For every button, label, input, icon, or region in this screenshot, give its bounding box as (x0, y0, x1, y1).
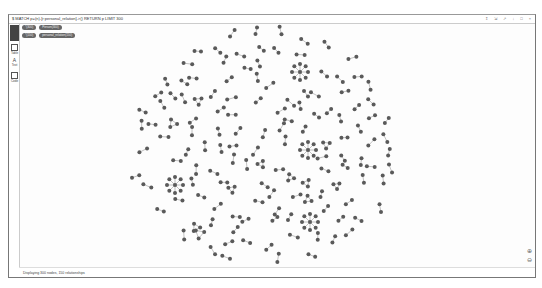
graph-node[interactable] (344, 202, 348, 206)
graph-node[interactable] (140, 127, 144, 131)
graph-node[interactable] (331, 182, 335, 186)
graph-node[interactable] (155, 207, 159, 211)
sidebar-item-text[interactable]: A Text (10, 58, 19, 70)
graph-node[interactable] (233, 185, 237, 189)
graph-node[interactable] (242, 66, 246, 70)
graph-node[interactable] (354, 55, 358, 59)
graph-node[interactable] (236, 225, 240, 229)
graph-node[interactable] (301, 130, 305, 134)
graph-node[interactable] (373, 113, 377, 117)
graph-node[interactable] (159, 90, 163, 94)
graph-node[interactable] (300, 154, 304, 158)
graph-node[interactable] (372, 103, 376, 107)
graph-node[interactable] (383, 121, 387, 125)
graph-node[interactable] (360, 74, 364, 78)
graph-node[interactable] (360, 156, 364, 160)
graph-node[interactable] (228, 35, 232, 39)
graph-node[interactable] (304, 76, 308, 80)
graph-node[interactable] (212, 207, 216, 211)
graph-node[interactable] (213, 89, 217, 93)
graph-node[interactable] (137, 108, 141, 112)
graph-node[interactable] (275, 260, 279, 264)
graph-node[interactable] (298, 62, 302, 66)
graph-node[interactable] (378, 202, 382, 206)
graph-node[interactable] (244, 158, 248, 162)
graph-node[interactable] (277, 206, 281, 210)
graph-node[interactable] (256, 145, 260, 149)
graph-node[interactable] (298, 70, 302, 74)
graph-node[interactable] (182, 237, 186, 241)
graph-node[interactable] (272, 46, 276, 50)
graph-node[interactable] (322, 209, 326, 213)
graph-node[interactable] (317, 95, 321, 99)
graph-node[interactable] (260, 200, 264, 204)
graph-node[interactable] (302, 214, 306, 218)
graph-node[interactable] (320, 189, 324, 193)
graph-node[interactable] (302, 89, 306, 93)
graph-node[interactable] (168, 91, 172, 95)
graph-node[interactable] (327, 45, 331, 49)
graph-node[interactable] (158, 135, 162, 139)
graph-node[interactable] (173, 197, 177, 201)
graph-canvas[interactable] (20, 24, 535, 267)
graph-node[interactable] (344, 233, 348, 237)
graph-node[interactable] (301, 181, 305, 185)
graph-node[interactable] (185, 82, 189, 86)
graph-node[interactable] (235, 52, 239, 56)
graph-node[interactable] (284, 134, 288, 138)
graph-node[interactable] (270, 243, 274, 247)
graph-node[interactable] (283, 117, 287, 121)
graph-node[interactable] (230, 191, 234, 195)
graph-node[interactable] (165, 183, 169, 187)
graph-node[interactable] (367, 116, 371, 120)
graph-node[interactable] (234, 95, 238, 99)
graph-node[interactable] (308, 212, 312, 216)
graph-node[interactable] (316, 238, 320, 242)
graph-node[interactable] (306, 95, 310, 99)
graph-node[interactable] (324, 154, 328, 158)
graph-node[interactable] (190, 62, 194, 66)
graph-node[interactable] (316, 220, 320, 224)
graph-node[interactable] (182, 61, 186, 65)
graph-node[interactable] (359, 130, 363, 134)
graph-node[interactable] (145, 146, 149, 150)
graph-node[interactable] (179, 189, 183, 193)
graph-node[interactable] (224, 55, 228, 59)
graph-node[interactable] (276, 111, 280, 115)
graph-node[interactable] (390, 171, 394, 175)
graph-node[interactable] (336, 219, 340, 223)
graph-node[interactable] (189, 176, 193, 180)
graph-node[interactable] (322, 40, 326, 44)
graph-node[interactable] (321, 141, 325, 145)
graph-node[interactable] (350, 228, 354, 232)
graph-node[interactable] (209, 95, 213, 99)
graph-node[interactable] (262, 49, 266, 53)
graph-node[interactable] (306, 42, 310, 46)
graph-node[interactable] (225, 79, 229, 83)
sidebar-item-graph[interactable] (10, 25, 19, 41)
graph-node[interactable] (140, 119, 144, 123)
graph-node[interactable] (257, 45, 261, 49)
graph-node[interactable] (292, 64, 296, 68)
graph-node[interactable] (179, 79, 183, 83)
graph-node[interactable] (149, 186, 153, 190)
graph-node[interactable] (141, 182, 145, 186)
graph-node[interactable] (306, 252, 310, 256)
graph-node[interactable] (369, 88, 373, 92)
collapse-button[interactable]: ↓ (512, 16, 514, 21)
graph-node[interactable] (186, 147, 190, 151)
graph-node[interactable] (208, 169, 212, 173)
graph-node[interactable] (259, 96, 263, 100)
graph-node[interactable] (326, 204, 330, 208)
graph-node[interactable] (222, 105, 226, 109)
graph-node[interactable] (213, 252, 217, 256)
graph-node[interactable] (373, 165, 377, 169)
graph-node[interactable] (357, 103, 361, 107)
graph-node[interactable] (180, 92, 184, 96)
graph-node[interactable] (223, 242, 227, 246)
graph-node[interactable] (283, 106, 287, 110)
graph-node[interactable] (187, 76, 191, 80)
graph-node[interactable] (328, 141, 332, 145)
graph-node[interactable] (194, 172, 198, 176)
graph-node[interactable] (219, 202, 223, 206)
